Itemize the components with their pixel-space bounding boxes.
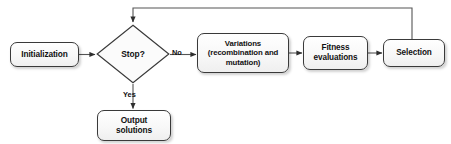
- node-decision-stop[interactable]: Stop?: [96, 24, 170, 84]
- node-fitness-line1: Fitness: [322, 43, 350, 52]
- node-initialization[interactable]: Initialization: [10, 42, 79, 67]
- node-fitness-label: Fitness evaluations: [311, 43, 361, 62]
- node-fitness-line2: evaluations: [314, 53, 358, 62]
- node-selection-label: Selection: [393, 48, 435, 58]
- node-variations-label: Variations (recombination and mutation): [205, 39, 282, 67]
- node-variations-line2: (recombination and: [208, 48, 279, 57]
- edge-label-yes: Yes: [123, 90, 136, 99]
- node-variations-line1: Variations: [225, 39, 261, 48]
- node-output-solutions[interactable]: Output solutions: [97, 110, 171, 141]
- node-variations[interactable]: Variations (recombination and mutation): [197, 33, 289, 73]
- node-initialization-label: Initialization: [18, 50, 71, 60]
- node-output-line1: Output: [121, 115, 148, 125]
- flowchart-canvas: Variations --> Output solutions --> Init…: [0, 0, 451, 144]
- edge-label-no: No: [172, 48, 182, 57]
- node-variations-line3: mutation): [226, 58, 261, 67]
- node-decision-label: Stop?: [121, 49, 145, 59]
- node-output-label: Output solutions: [113, 116, 155, 136]
- node-fitness-evaluations[interactable]: Fitness evaluations: [303, 36, 368, 70]
- node-output-line2: solutions: [116, 125, 152, 135]
- node-selection[interactable]: Selection: [383, 39, 445, 67]
